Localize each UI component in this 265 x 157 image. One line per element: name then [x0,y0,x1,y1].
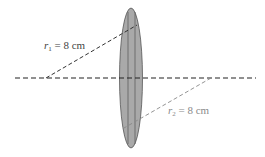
lens-diagram-svg: r1 = 8 cm r2 = 8 cm [0,0,265,157]
r2-label: r2 = 8 cm [168,104,210,118]
lens-diagram: r1 = 8 cm r2 = 8 cm [0,0,265,157]
r1-label: r1 = 8 cm [44,39,86,53]
